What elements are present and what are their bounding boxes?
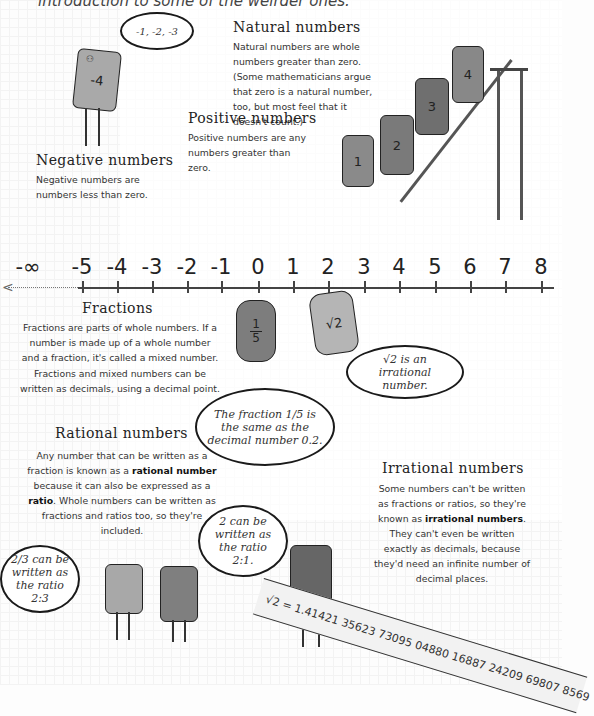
tick-mark bbox=[187, 281, 189, 293]
character-leg bbox=[172, 620, 174, 642]
tick-mark bbox=[221, 281, 223, 293]
tick-label: 1 bbox=[286, 255, 299, 279]
speech-bubble-two-thirds: 2/3 can be written as the ratio 2:3 bbox=[0, 545, 80, 613]
speech-bubble-two: 2 can be written as the ratio 2:1. bbox=[198, 505, 288, 577]
character-label: -4 bbox=[90, 72, 104, 88]
heading-rational-numbers: Rational numbers bbox=[55, 425, 188, 441]
bubble-text: √2 is an irrational number. bbox=[358, 353, 452, 392]
heading-natural-numbers: Natural numbers bbox=[233, 19, 361, 35]
tick-label: -3 bbox=[142, 255, 163, 279]
ladder-leg bbox=[520, 70, 523, 220]
tick-label: 6 bbox=[463, 255, 476, 279]
text-segment: because it can also be expressed as a bbox=[34, 480, 211, 491]
tick-label: 2 bbox=[321, 255, 334, 279]
axis-dotted bbox=[8, 287, 78, 288]
character-leg bbox=[184, 620, 186, 642]
tick-mark bbox=[117, 281, 119, 293]
tick-label: 3 bbox=[357, 255, 370, 279]
text-fractions-1: Fractions are parts of whole numbers. If… bbox=[20, 320, 220, 365]
term-ratio: ratio bbox=[28, 495, 53, 506]
text-fractions-2: Fractions and mixed numbers can be writt… bbox=[20, 366, 220, 396]
tick-mark bbox=[364, 281, 366, 293]
term-rational-number: rational number bbox=[132, 465, 217, 476]
text-positive-numbers: Positive numbers are any numbers greater… bbox=[188, 130, 313, 175]
character-two-thirds bbox=[105, 564, 143, 614]
intro-text: introduction to some of the weirder ones… bbox=[38, 0, 350, 10]
text-irrational-numbers: Some numbers can't be written as fractio… bbox=[372, 481, 532, 586]
character-four: 4 bbox=[452, 46, 484, 103]
number-line: < -∞ -5 -4 -3 -2 -1 0 1 2 3 4 5 6 7 8 bbox=[0, 255, 562, 295]
tick-mark bbox=[328, 281, 330, 293]
bubble-text: -1, -2, -3 bbox=[136, 26, 178, 37]
tick-mark bbox=[258, 281, 260, 293]
character-label: 4 bbox=[464, 67, 472, 82]
text-rational-numbers: Any number that can be written as a frac… bbox=[22, 448, 222, 538]
tick-label: -4 bbox=[107, 255, 128, 279]
text-segment: . Whole numbers can be written as fracti… bbox=[42, 495, 216, 536]
character-negative-four: -4 bbox=[72, 48, 122, 112]
character-three: 3 bbox=[415, 78, 449, 135]
tick-mark bbox=[435, 281, 437, 293]
character-leg bbox=[85, 108, 87, 146]
character-label: 2 bbox=[393, 138, 401, 153]
heading-irrational-numbers: Irrational numbers bbox=[382, 460, 524, 476]
character-two: 2 bbox=[380, 115, 414, 175]
glasses-icon: ⚇ bbox=[86, 54, 94, 64]
character-two-ratio bbox=[160, 566, 198, 622]
fraction-numerator: 1 bbox=[250, 318, 262, 332]
heading-negative-numbers: Negative numbers bbox=[36, 152, 173, 168]
tick-mark bbox=[82, 281, 84, 293]
tick-label: -1 bbox=[211, 255, 232, 279]
tick-label: 8 bbox=[534, 255, 547, 279]
character-label: 1 bbox=[354, 154, 362, 169]
tick-label: -2 bbox=[177, 255, 198, 279]
heading-positive-numbers: Positive numbers bbox=[188, 110, 317, 126]
axis-line bbox=[78, 287, 554, 289]
tick-mark bbox=[293, 281, 295, 293]
heading-fractions: Fractions bbox=[82, 300, 153, 316]
character-root-two: √2 bbox=[308, 289, 360, 357]
tick-mark bbox=[541, 281, 543, 293]
ladder-top bbox=[490, 68, 528, 71]
bubble-text: 2 can be written as the ratio 2:1. bbox=[208, 515, 278, 567]
tick-label: 7 bbox=[498, 255, 511, 279]
character-one: 1 bbox=[342, 135, 374, 187]
tick-mark bbox=[399, 281, 401, 293]
character-one-fifth: 1 5 bbox=[236, 300, 276, 362]
speech-bubble-negatives: -1, -2, -3 bbox=[120, 12, 194, 50]
bubble-text: The fraction 1/5 is the same as the deci… bbox=[207, 408, 323, 447]
ladder-leg bbox=[497, 70, 500, 220]
character-leg bbox=[116, 612, 118, 640]
character-label: √2 bbox=[325, 314, 343, 331]
character-leg bbox=[128, 612, 130, 640]
tick-label: 4 bbox=[392, 255, 405, 279]
tick-mark bbox=[152, 281, 154, 293]
tick-mark bbox=[505, 281, 507, 293]
term-irrational-numbers: irrational numbers bbox=[425, 513, 523, 524]
bubble-text: 2/3 can be written as the ratio 2:3 bbox=[8, 553, 72, 605]
tick-label: -∞ bbox=[15, 255, 40, 279]
tick-label: 0 bbox=[251, 255, 264, 279]
character-leg bbox=[98, 108, 100, 146]
tick-label: 5 bbox=[428, 255, 441, 279]
tick-label: -5 bbox=[72, 255, 93, 279]
text-negative-numbers: Negative numbers are numbers less than z… bbox=[36, 172, 166, 202]
speech-bubble-root-two: √2 is an irrational number. bbox=[346, 345, 464, 399]
tick-mark bbox=[470, 281, 472, 293]
character-label: 3 bbox=[428, 99, 436, 114]
fraction-denominator: 5 bbox=[252, 332, 260, 345]
